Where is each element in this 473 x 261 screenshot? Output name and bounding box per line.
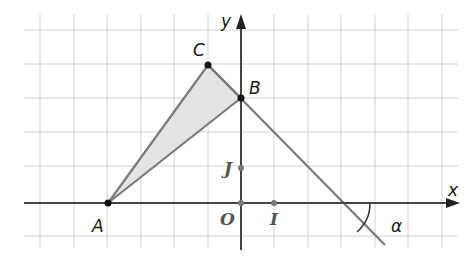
y-axis-arrow-icon: [236, 14, 246, 29]
label-alpha: α: [391, 216, 402, 236]
label-a: A: [91, 216, 104, 236]
point-a: [105, 200, 112, 207]
label-c: C: [193, 40, 205, 60]
coordinate-diagram: y x A B C O I J α: [0, 0, 473, 261]
label-j: J: [221, 158, 233, 178]
label-o: O: [220, 209, 235, 229]
point-j: [238, 165, 244, 171]
point-o: [238, 200, 244, 206]
label-x-axis: x: [447, 180, 459, 200]
point-c: [205, 62, 212, 69]
label-i: I: [269, 209, 279, 229]
label-y-axis: y: [220, 11, 232, 31]
label-b: B: [249, 78, 261, 98]
point-b: [238, 95, 245, 102]
point-i: [271, 200, 277, 206]
